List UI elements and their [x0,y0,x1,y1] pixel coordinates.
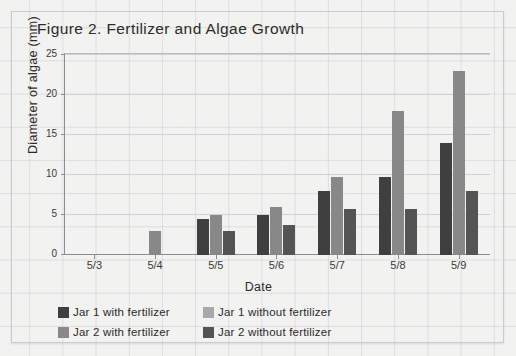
y-tick-label: 15 [35,128,57,139]
bar-group: 5/4 [125,53,186,255]
bar-group-bars [246,53,307,255]
x-tick-label: 5/6 [246,259,307,271]
bar [210,215,222,255]
bar [344,209,356,255]
bar [318,191,330,255]
legend-row: Jar 2 with fertilizer Jar 2 without fert… [58,322,388,342]
bar [379,177,391,255]
legend-swatch-icon [58,307,69,318]
bar [466,191,478,255]
bar-group-bars [428,53,489,255]
x-tick-label: 5/7 [307,259,368,271]
x-tick-label: 5/5 [185,259,246,271]
legend-item-jar2-with-fertilizer: Jar 2 with fertilizer [58,326,203,338]
figure-card: Figure 2. Fertilizer and Algae Growth Di… [11,11,504,343]
bar-group: 5/3 [64,53,125,255]
bar [270,207,282,255]
legend-row: Jar 1 with fertilizer Jar 1 without fert… [58,302,388,322]
y-tick-label: 20 [35,88,57,99]
chart-title: Figure 2. Fertilizer and Algae Growth [37,20,304,38]
x-axis-title: Date [12,280,505,294]
x-tick-label: 5/9 [428,259,489,271]
x-tick-label: 5/3 [64,259,125,271]
bar-group-bars [368,53,429,255]
plot-wrapper: 05101520255/35/45/55/65/75/85/9 [64,53,490,255]
legend-item-jar2-without-fertilizer: Jar 2 without fertilizer [203,326,331,338]
bar-group-bars [64,53,125,255]
bar-group: 5/6 [246,53,307,255]
legend-item-jar1-with-fertilizer: Jar 1 with fertilizer [58,306,203,318]
bar [392,111,404,255]
legend-swatch-icon [203,327,214,338]
legend-swatch-icon [203,307,214,318]
y-tick-label: 0 [35,248,57,259]
bar-group-bars [185,53,246,255]
bar [257,215,269,255]
x-tick-label: 5/4 [125,259,186,271]
y-tick-label: 5 [35,208,57,219]
bar-group: 5/7 [307,53,368,255]
x-tick-label: 5/8 [368,259,429,271]
chart-legend: Jar 1 with fertilizer Jar 1 without fert… [58,302,388,342]
chart-page: Figure 2. Fertilizer and Algae Growth Di… [0,0,516,356]
page-top-text [0,0,516,10]
legend-label: Jar 2 with fertilizer [73,326,170,338]
bar-group: 5/5 [185,53,246,255]
legend-label: Jar 2 without fertilizer [218,326,331,338]
bar-group-bars [307,53,368,255]
bar-group: 5/8 [368,53,429,255]
bar [223,231,235,255]
bar [331,177,343,255]
bar [405,209,417,255]
bar-group-bars [125,53,186,255]
bar [440,143,452,255]
legend-item-jar1-without-fertilizer: Jar 1 without fertilizer [203,306,331,318]
y-tick-label: 10 [35,168,57,179]
bar [197,219,209,255]
legend-label: Jar 1 with fertilizer [73,306,170,318]
bar-group: 5/9 [428,53,489,255]
y-tick-label: 25 [35,48,57,59]
bar [453,71,465,255]
bar [149,231,161,255]
legend-swatch-icon [58,327,69,338]
legend-label: Jar 1 without fertilizer [218,306,331,318]
bar [283,225,295,255]
